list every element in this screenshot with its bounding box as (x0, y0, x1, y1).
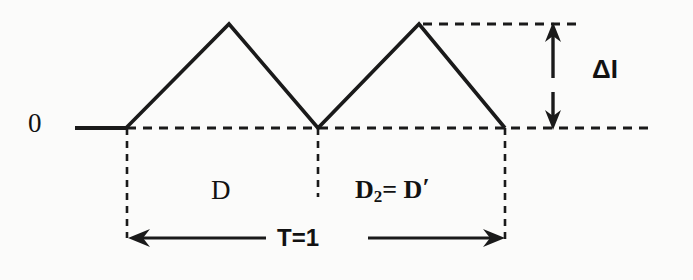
delta-i-up-arrow (545, 22, 561, 78)
duty-d2-equals: = D (382, 175, 422, 204)
delta-i-label: ΔI (592, 56, 618, 82)
period-label: T=1 (277, 226, 319, 250)
diagram-canvas (0, 0, 693, 280)
delta-i-down-arrow (545, 92, 561, 130)
ripple-waveform-trace (126, 24, 505, 128)
duty-d-label: D (211, 177, 231, 204)
period-right-arrow (368, 229, 505, 247)
duty-d2-subscript: 2 (374, 187, 383, 206)
duty-d2-prime: ′ (422, 173, 429, 202)
waveform-diagram: 0 ΔI D D2= D′ T=1 (0, 0, 693, 280)
period-left-arrow (128, 229, 266, 247)
zero-level-label: 0 (28, 110, 42, 137)
duty-d2-base: D (355, 175, 374, 204)
duty-d2-label: D2= D′ (355, 175, 430, 205)
